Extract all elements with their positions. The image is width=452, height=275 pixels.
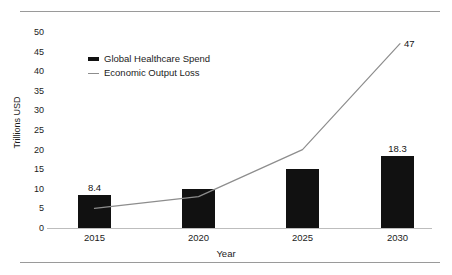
legend-bar-swatch-icon	[88, 57, 99, 61]
legend-item-global-healthcare-spend[interactable]: Global Healthcare Spend	[88, 52, 210, 66]
chart-page: Trillions USD 50 45 40 35 30 25 20 15 10…	[0, 0, 452, 275]
x-axis-title: Year	[0, 249, 452, 259]
chart-legend: Global Healthcare Spend Economic Output …	[88, 52, 210, 80]
line-label-2030: 47	[404, 39, 415, 49]
x-tick-2015: 2015	[65, 233, 125, 243]
x-tick-2020: 2020	[169, 233, 229, 243]
legend-line-swatch-icon	[88, 73, 99, 74]
x-tick-2025: 2025	[273, 233, 333, 243]
legend-label-global-healthcare-spend: Global Healthcare Spend	[104, 52, 210, 66]
combo-bar-line-chart: Trillions USD 50 45 40 35 30 25 20 15 10…	[0, 0, 452, 275]
legend-label-economic-output-loss: Economic Output Loss	[104, 66, 200, 80]
legend-item-economic-output-loss[interactable]: Economic Output Loss	[88, 66, 210, 80]
x-tick-2030: 2030	[368, 233, 428, 243]
